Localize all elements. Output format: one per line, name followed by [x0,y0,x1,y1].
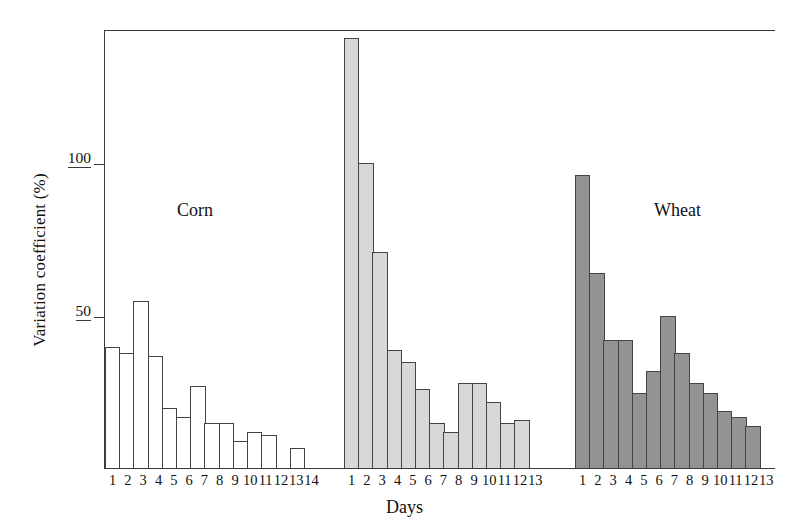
bars [575,30,774,469]
bar[interactable] [632,393,647,470]
bar[interactable] [703,393,718,470]
x-tick-label: 9 [466,473,481,488]
x-tick-label: 6 [181,473,196,488]
bar[interactable] [618,340,633,469]
bar[interactable] [176,417,191,469]
x-tick-label: 13 [289,473,304,488]
bar[interactable] [486,402,501,469]
bar[interactable] [358,163,373,469]
x-tick-label: 4 [621,473,636,488]
x-tick-label: 1 [344,473,359,488]
y-axis-title: Variation coefficient (%) [30,150,50,370]
bar[interactable] [514,420,529,469]
x-tick-labels: 1234567891011121314 [105,473,319,488]
x-tick-label: 13 [528,473,543,488]
plot-area: 100 50 1234567891011121314Corn1234567891… [104,30,775,469]
bar[interactable] [472,383,487,469]
bars [105,30,319,469]
x-tick-label: 7 [197,473,212,488]
bar[interactable] [133,301,148,469]
x-tick-label: 10 [482,473,497,488]
bar-group-corn: 1234567891011121314Corn [105,30,319,469]
x-tick-label: 8 [451,473,466,488]
bar[interactable] [745,426,760,469]
x-tick-label: 2 [590,473,605,488]
x-tick-label: 8 [212,473,227,488]
bar[interactable] [443,432,458,469]
x-tick-label: 4 [390,473,405,488]
x-tick-label: 13 [759,473,774,488]
bar-group-wheat: 12345678910111213Wheat [344,30,543,469]
bar[interactable] [589,273,604,469]
bar[interactable] [458,383,473,469]
bar[interactable] [401,362,416,469]
x-tick-label: 12 [273,473,288,488]
bar[interactable] [731,417,746,469]
y-tick-label: 50 [76,303,92,321]
x-tick-label: 1 [575,473,590,488]
x-tick-label: 10 [243,473,258,488]
bar[interactable] [344,38,359,469]
x-tick-labels: 12345678910111213 [344,473,543,488]
x-tick-label: 7 [436,473,451,488]
bar-group-sorghum: 12345678910111213Sorghum [575,30,774,469]
x-tick-label: 1 [105,473,120,488]
bar[interactable] [190,386,205,469]
x-tick-label: 11 [728,473,743,488]
bar[interactable] [247,432,262,469]
x-tick-label: 2 [359,473,374,488]
group-label-corn: Corn [177,200,213,221]
x-tick-label: 12 [743,473,758,488]
x-tick-label: 3 [606,473,621,488]
y-tick-mark [94,317,105,318]
bar[interactable] [219,423,234,469]
bars [344,30,543,469]
x-tick-label: 3 [136,473,151,488]
chart-figure: Variation coefficient (%) 100 50 1234567… [0,0,809,532]
bar[interactable] [500,423,515,469]
x-axis-line [104,468,775,469]
bar[interactable] [646,371,661,469]
x-tick-label: 11 [497,473,512,488]
x-tick-label: 8 [682,473,697,488]
bar[interactable] [415,389,430,469]
bar[interactable] [689,383,704,469]
bar[interactable] [204,423,219,469]
x-tick-label: 5 [166,473,181,488]
bar[interactable] [660,316,675,469]
bar[interactable] [233,441,248,469]
x-tick-label: 5 [636,473,651,488]
bar[interactable] [105,347,120,469]
x-tick-label: 6 [420,473,435,488]
y-tick-label: 100 [68,150,91,168]
x-axis-title: Days [0,497,809,518]
x-tick-label: 11 [258,473,273,488]
bar[interactable] [387,350,402,469]
x-tick-label: 9 [227,473,242,488]
x-tick-label: 9 [697,473,712,488]
bar[interactable] [717,411,732,469]
x-tick-label: 7 [667,473,682,488]
x-tick-label: 12 [512,473,527,488]
x-tick-label: 4 [151,473,166,488]
x-tick-label: 3 [375,473,390,488]
bar[interactable] [429,423,444,469]
x-tick-labels: 12345678910111213 [575,473,774,488]
bar[interactable] [148,356,163,469]
y-tick-mark [94,164,105,165]
x-tick-label: 14 [304,473,319,488]
bar[interactable] [290,448,305,469]
bar[interactable] [372,252,387,469]
bar[interactable] [261,435,276,469]
bar[interactable] [119,353,134,469]
x-tick-label: 10 [713,473,728,488]
x-tick-label: 6 [651,473,666,488]
bar[interactable] [603,340,618,469]
x-tick-label: 5 [405,473,420,488]
bar[interactable] [674,353,689,469]
bar[interactable] [162,408,177,469]
bar[interactable] [575,175,590,469]
x-tick-label: 2 [120,473,135,488]
